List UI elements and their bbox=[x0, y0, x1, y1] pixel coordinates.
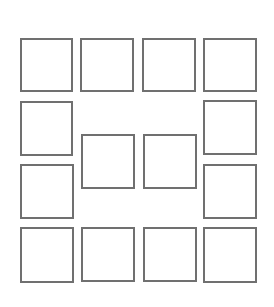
square-r3c1 bbox=[20, 164, 74, 219]
square-r4c2 bbox=[81, 227, 135, 282]
square-r1c4 bbox=[203, 38, 257, 92]
square-r3c4 bbox=[203, 164, 257, 219]
square-r1c1 bbox=[20, 38, 73, 92]
square-r1c3 bbox=[142, 38, 196, 92]
square-mid-left bbox=[81, 134, 135, 189]
square-r2c1 bbox=[20, 101, 73, 156]
square-r2c4 bbox=[203, 100, 257, 155]
square-mid-right bbox=[143, 134, 197, 189]
square-r1c2 bbox=[80, 38, 134, 92]
square-r4c3 bbox=[143, 227, 197, 282]
square-r4c1 bbox=[20, 227, 74, 283]
square-r4c4 bbox=[203, 227, 257, 283]
